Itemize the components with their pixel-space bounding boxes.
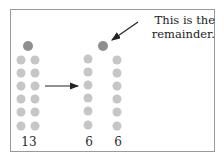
arrows-layer <box>0 0 224 161</box>
remainder-pointer-arrow-icon <box>112 22 138 40</box>
